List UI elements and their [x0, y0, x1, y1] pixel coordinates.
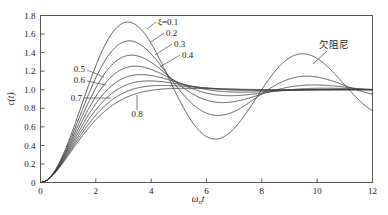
svg-text:ωnt: ωnt — [192, 194, 205, 205]
x-axis-title: ωnt — [192, 194, 205, 205]
leader-zeta-0-4 — [160, 55, 180, 67]
y-tick-label: 0.4 — [24, 141, 36, 151]
x-tick-label: 6 — [204, 186, 209, 196]
x-tick-label: 4 — [149, 186, 154, 196]
annotation-zeta-0-1: ξ=0.1 — [158, 17, 178, 27]
x-tick-label: 8 — [260, 186, 265, 196]
response-curve-zeta-0-6 — [41, 81, 373, 183]
annotation-zeta-0-5: 0.5 — [74, 64, 86, 74]
leader-zeta-0-3 — [155, 44, 172, 55]
y-tick-label: 1.0 — [24, 85, 36, 95]
annotation-underdamped: 欠阻尼 — [319, 39, 349, 50]
leader-zeta-0-5 — [87, 70, 104, 77]
annotation-zeta-0-3: 0.3 — [174, 39, 186, 49]
y-tick-label: 1.4 — [24, 48, 36, 58]
y-tick-label: 1.6 — [24, 29, 36, 39]
response-curve-zeta-0-8 — [41, 88, 373, 182]
y-tick-label: 0 — [31, 178, 36, 188]
response-curve-zeta-0-4 — [41, 66, 373, 182]
y-tick-label: 1.2 — [24, 66, 35, 76]
y-tick-label: 1.8 — [24, 11, 36, 21]
x-tick-label: 2 — [94, 186, 99, 196]
annotation-leaders — [84, 22, 327, 110]
y-tick-label: 0.6 — [24, 122, 36, 132]
leader-zeta-0-2 — [151, 33, 164, 42]
annotation-zeta-0-8: 0.8 — [131, 109, 143, 119]
step-response-chart: 00.20.40.60.81.01.21.41.61.8024681012 c(… — [0, 0, 388, 215]
x-tick-label: 0 — [38, 186, 43, 196]
x-axis-title-tail: t — [202, 194, 205, 204]
y-axis-title: c(t) — [6, 92, 17, 105]
response-curve-zeta-0-3 — [41, 55, 373, 182]
annotation-zeta-0-6: 0.6 — [74, 75, 86, 85]
x-tick-label: 10 — [313, 186, 323, 196]
annotation-zeta-0-4: 0.4 — [182, 50, 194, 60]
y-tick-label: 0.8 — [24, 103, 36, 113]
annotation-zeta-0-7: 0.7 — [71, 93, 83, 103]
annotation-zeta-0-2: 0.2 — [166, 28, 177, 38]
leader-zeta-0-1 — [147, 22, 156, 29]
leader-zeta-0-6 — [87, 81, 106, 85]
y-tick-label: 0.2 — [24, 159, 35, 169]
x-tick-label: 12 — [368, 186, 377, 196]
chart-figure: 00.20.40.60.81.01.21.41.61.8024681012 c(… — [0, 0, 388, 215]
